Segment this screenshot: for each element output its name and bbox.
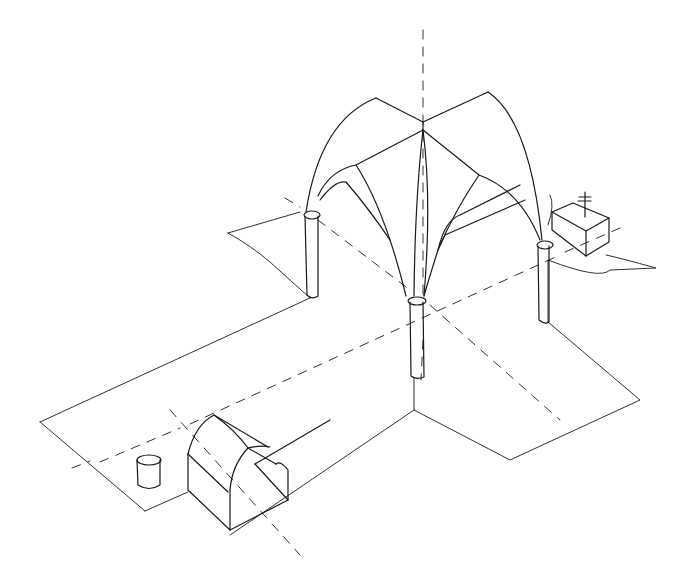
altar-box — [552, 192, 609, 256]
column-center — [408, 297, 426, 378]
column-left — [304, 211, 320, 298]
axes — [72, 30, 620, 555]
cross-vault — [306, 92, 542, 296]
gabled-block — [188, 415, 330, 530]
columns — [304, 211, 553, 378]
transept-axis — [170, 198, 560, 555]
cross-marker — [578, 192, 591, 217]
floor-plan — [40, 195, 656, 535]
architectural-sketch — [0, 0, 696, 585]
cylinder — [137, 455, 161, 489]
vertical-axis — [421, 30, 423, 380]
column-right — [537, 241, 553, 323]
